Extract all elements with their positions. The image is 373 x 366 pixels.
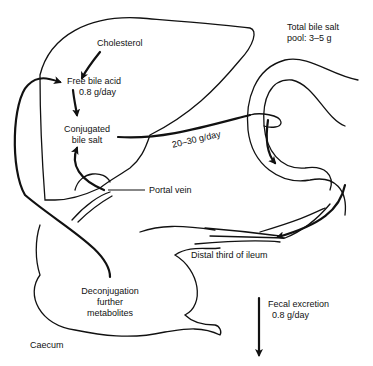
arrow-cholesterol-to-free [82, 52, 100, 78]
label-synthesis-rate: 0.8 g/day [79, 87, 116, 98]
label-cholesterol: Cholesterol [97, 38, 143, 49]
arrow-into-ileum [278, 185, 345, 237]
arrow-colon-to-free [15, 78, 110, 277]
duodenum-hook [250, 114, 281, 127]
label-conjugated-line2: bile salt [60, 135, 114, 146]
label-fecal-excretion: Fecal excretion 0.8 g/day [268, 299, 329, 321]
intestine-loop-outer [247, 59, 358, 215]
label-pool-line2: pool: 3–5 g [287, 33, 339, 44]
label-deconj-line3: metabolites [75, 308, 145, 319]
label-free-bile-acid: Free bile acid [67, 76, 121, 87]
arrow-free-to-conjugated [73, 90, 77, 115]
label-pool-line1: Total bile salt [287, 22, 339, 33]
ileum-lower-2 [210, 204, 330, 238]
arrow-portal-to-conjugated [75, 148, 104, 190]
bile-duct [118, 115, 250, 137]
ileum-tube-bottom [195, 241, 280, 244]
label-deconj-line1: Deconjugation [75, 286, 145, 297]
gallbladder-outline [75, 174, 110, 190]
liver-outline [40, 18, 254, 200]
label-fecal-line1: Fecal excretion [268, 299, 329, 310]
label-bile-salt-pool: Total bile salt pool: 3–5 g [287, 22, 339, 44]
label-caecum: Caecum [30, 340, 64, 351]
label-distal-ileum: Distal third of ileum [191, 250, 268, 261]
label-fecal-line2: 0.8 g/day [268, 310, 329, 321]
caecum-outline [34, 225, 221, 336]
label-conjugated-line1: Conjugated [60, 124, 114, 135]
colon-arm [140, 226, 215, 232]
arrow-ileum-loop [267, 120, 275, 163]
label-portal-vein: Portal vein [149, 185, 192, 196]
label-conjugated-bile-salt: Conjugated bile salt [60, 124, 114, 146]
intestine-loop-inner [264, 80, 345, 190]
bile-salt-circulation-diagram: Cholesterol Free bile acid 0.8 g/day Con… [0, 0, 373, 366]
label-deconj-line2: further [75, 297, 145, 308]
label-deconjugation: Deconjugation further metabolites [75, 286, 145, 319]
